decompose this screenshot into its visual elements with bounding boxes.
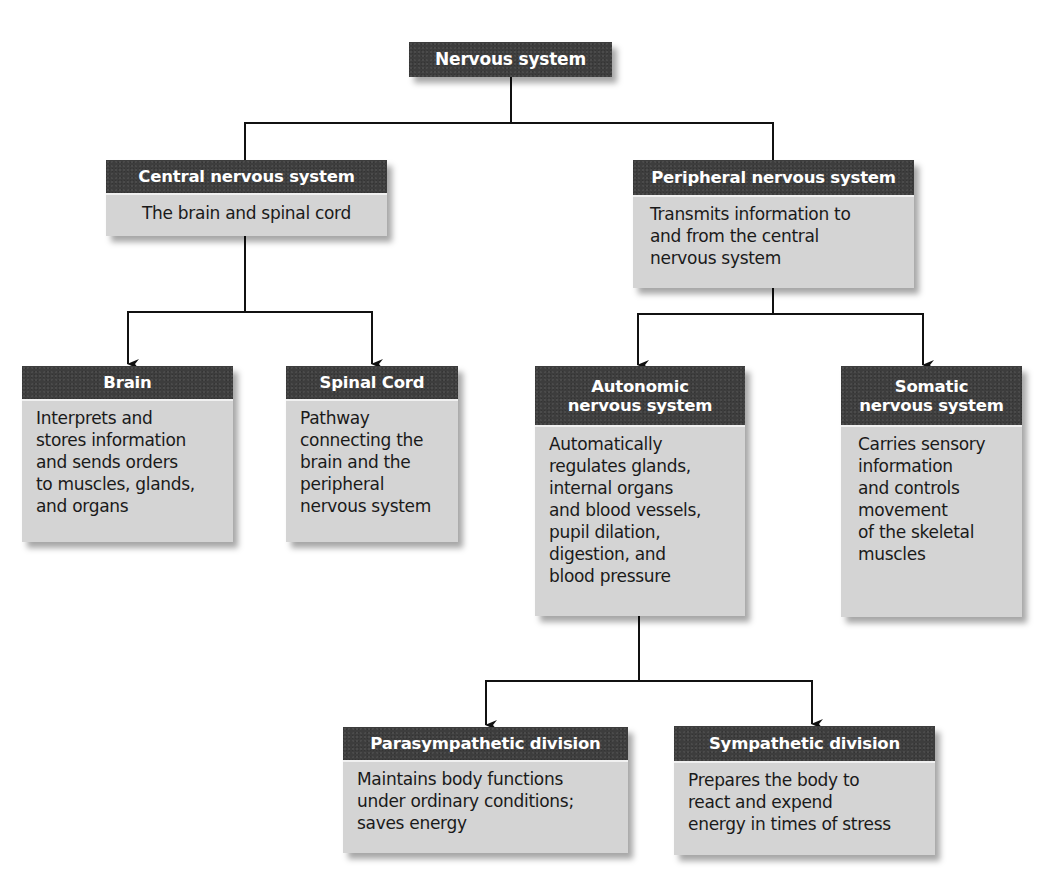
node-description: Prepares the body to react and expend en… bbox=[674, 763, 935, 841]
node-title: Brain bbox=[22, 366, 233, 401]
node-title: Nervous system bbox=[409, 42, 612, 77]
node-title: Central nervous system bbox=[106, 160, 387, 195]
node-parasympathetic-division: Parasympathetic division Maintains body … bbox=[343, 727, 628, 853]
node-title: Parasympathetic division bbox=[343, 727, 628, 762]
node-description: Maintains body functions under ordinary … bbox=[343, 762, 628, 840]
node-title: Autonomic nervous system bbox=[535, 366, 745, 427]
node-title: Peripheral nervous system bbox=[633, 160, 914, 197]
node-peripheral-nervous-system: Peripheral nervous system Transmits info… bbox=[633, 160, 914, 288]
node-description: Pathway connecting the brain and the per… bbox=[286, 401, 458, 523]
node-title: Somatic nervous system bbox=[841, 366, 1022, 427]
node-sympathetic-division: Sympathetic division Prepares the body t… bbox=[674, 726, 935, 855]
node-brain: Brain Interprets and stores information … bbox=[22, 366, 233, 542]
node-central-nervous-system: Central nervous system The brain and spi… bbox=[106, 160, 387, 236]
node-description: Transmits information to and from the ce… bbox=[633, 197, 914, 275]
node-somatic-nervous-system: Somatic nervous system Carries sensory i… bbox=[841, 366, 1022, 617]
node-description: Interprets and stores information and se… bbox=[22, 401, 233, 523]
node-autonomic-nervous-system: Autonomic nervous system Automatically r… bbox=[535, 366, 745, 616]
node-title: Sympathetic division bbox=[674, 726, 935, 763]
node-description: The brain and spinal cord bbox=[106, 195, 387, 231]
node-description: Carries sensory information and controls… bbox=[841, 427, 1022, 571]
node-title: Spinal Cord bbox=[286, 366, 458, 401]
node-nervous-system: Nervous system bbox=[409, 42, 612, 77]
node-description: Automatically regulates glands, internal… bbox=[535, 427, 745, 593]
node-spinal-cord: Spinal Cord Pathway connecting the brain… bbox=[286, 366, 458, 542]
